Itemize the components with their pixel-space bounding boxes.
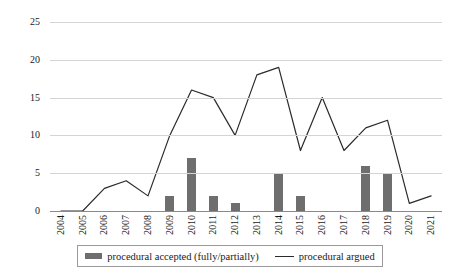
y-axis-tick-label: 5	[35, 168, 40, 178]
x-axis-tick-label: 2008	[143, 215, 153, 235]
y-axis-tick-label: 20	[30, 55, 40, 65]
x-axis-tick-label: 2016	[317, 215, 327, 235]
line-series-layer	[50, 22, 442, 211]
x-axis-tick-label: 2004	[56, 215, 66, 235]
gridline	[50, 98, 442, 99]
legend-item-procedural-accepted: procedural accepted (fully/partially)	[85, 251, 259, 262]
x-axis-tick-label: 2017	[339, 215, 349, 235]
gridline	[50, 60, 442, 61]
legend-label-procedural-accepted: procedural accepted (fully/partially)	[107, 251, 259, 262]
y-axis-tick-label: 25	[30, 17, 40, 27]
gridline	[50, 173, 442, 174]
y-axis-tick-label: 10	[30, 130, 40, 140]
x-axis-tick-label: 2015	[295, 215, 305, 235]
legend-item-procedural-argued: procedural argued	[275, 251, 375, 262]
procedural-argued-line	[61, 67, 431, 211]
x-axis-tick-label: 2006	[99, 215, 109, 235]
x-axis-tick-label: 2007	[121, 215, 131, 235]
x-axis-tick-label: 2013	[252, 215, 262, 235]
x-axis-tick-label: 2009	[165, 215, 175, 235]
x-axis-tick-label: 2011	[208, 215, 218, 235]
line-swatch-icon	[275, 256, 294, 257]
legend-label-procedural-argued: procedural argued	[299, 251, 375, 262]
x-axis-tick-label: 2021	[426, 215, 436, 235]
x-axis-tick-label: 2005	[78, 215, 88, 235]
x-axis-tick-label: 2020	[404, 215, 414, 235]
y-axis-labels: 0510152025	[0, 0, 46, 278]
plot-area	[50, 22, 442, 211]
y-axis-tick-label: 15	[30, 93, 40, 103]
gridline	[50, 22, 442, 23]
x-axis-tick-label: 2018	[361, 215, 371, 235]
chart-container: 0510152025 20042005200620072008200920102…	[0, 0, 459, 278]
x-axis-line	[50, 211, 442, 212]
x-axis-tick-label: 2019	[383, 215, 393, 235]
x-axis-tick-label: 2012	[230, 215, 240, 235]
y-axis-tick-label: 0	[35, 206, 40, 216]
x-axis-tick-label: 2014	[274, 215, 284, 235]
line-series-svg	[50, 22, 442, 211]
bar-swatch-icon	[85, 253, 102, 259]
x-axis-tick-label: 2010	[187, 215, 197, 235]
gridline	[50, 135, 442, 136]
chart-legend: procedural accepted (fully/partially) pr…	[77, 245, 383, 267]
